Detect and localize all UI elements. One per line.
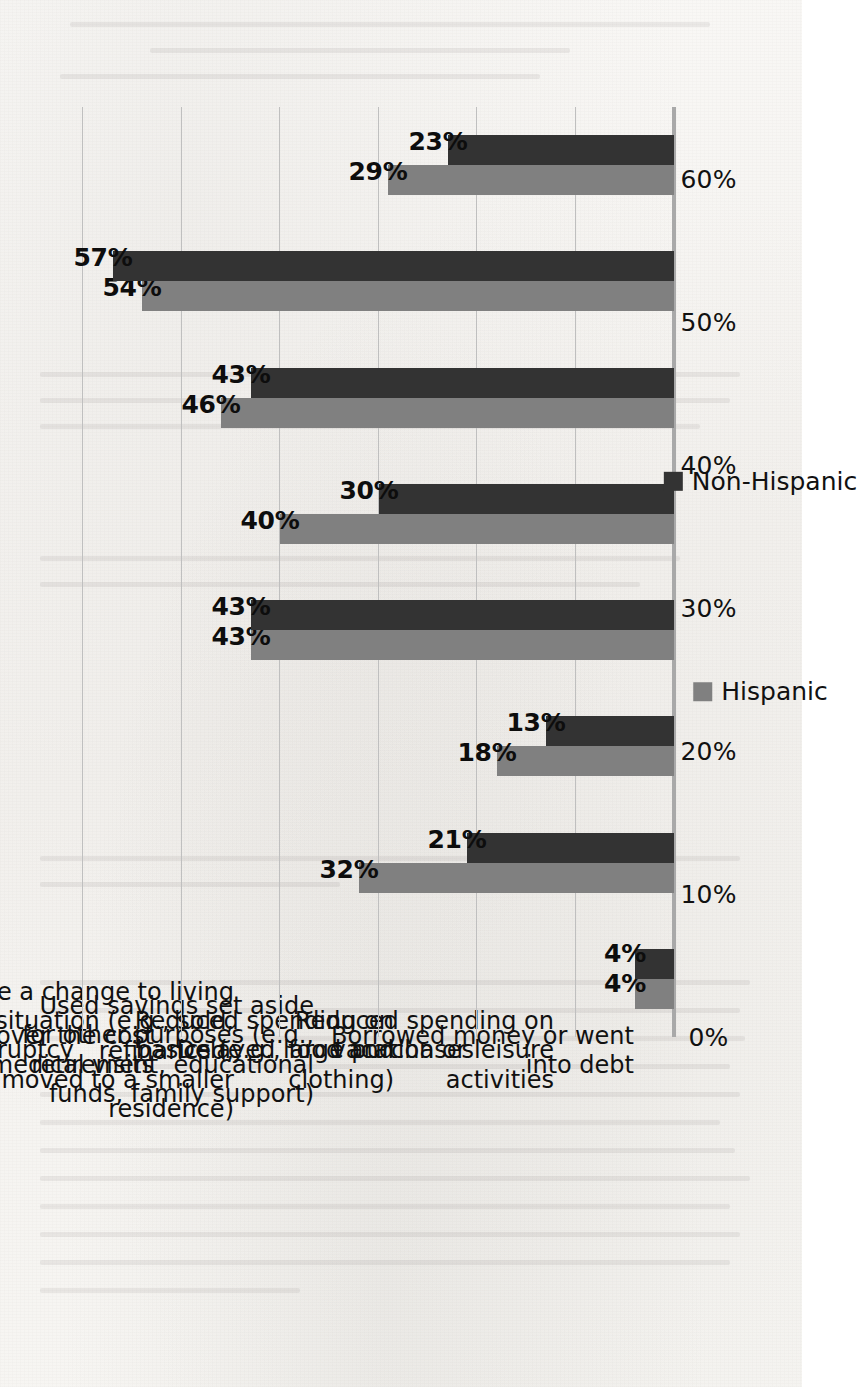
legend-swatch [693, 682, 712, 701]
bar-value-label: 43% [211, 592, 270, 621]
plot-area: 4%4%32%21%18%13%43%43%40%30%46%43%54%57%… [34, 107, 676, 1037]
bar-hispanic: 54% [142, 281, 674, 311]
value-axis-tick-label: 60% [680, 164, 736, 193]
legend-item-hispanic[interactable]: Hispanic [693, 677, 828, 706]
chart-area: Filed for bankruptcyUnable to cover the … [16, 29, 786, 1359]
bar-group: 54%57% [34, 223, 674, 339]
bar-group: 4%4% [34, 920, 674, 1036]
value-axis-labels: 0%10%20%30%40%50%60% [692, 107, 734, 1037]
bar-hispanic: 46% [221, 397, 674, 427]
bar-hispanic: 40% [280, 513, 674, 543]
bar-value-label: 23% [408, 127, 467, 156]
bar-value-label: 32% [319, 854, 378, 883]
bar-non-hispanic: 30% [379, 483, 674, 513]
bar-value-label: 4% [604, 939, 646, 968]
bar-value-label: 13% [507, 708, 566, 737]
bar-hispanic: 43% [251, 630, 674, 660]
chart-legend: HispanicNon-Hispanic [740, 107, 780, 1037]
legend-swatch [663, 472, 682, 491]
bar-hispanic: 32% [359, 862, 674, 892]
category-axis: Filed for bankruptcyUnable to cover the … [34, 1041, 674, 1359]
bar-group: 18%13% [34, 688, 674, 804]
legend-item-non-hispanic[interactable]: Non-Hispanic [663, 467, 856, 496]
bar-non-hispanic: 43% [251, 367, 674, 397]
bar-groups: 4%4%32%21%18%13%43%43%40%30%46%43%54%57%… [34, 107, 674, 1037]
bar-value-label: 40% [241, 505, 300, 534]
bar-hispanic: 4% [635, 978, 674, 1008]
bar-hispanic: 29% [388, 165, 674, 195]
bar-non-hispanic: 4% [635, 948, 674, 978]
bar-value-label: 57% [73, 243, 132, 272]
value-axis-tick-label: 10% [680, 879, 736, 908]
value-axis-tick-label: 20% [680, 736, 736, 765]
value-axis-tick-label: 0% [688, 1022, 728, 1051]
bar-value-label: 43% [211, 359, 270, 388]
bar-non-hispanic: 23% [448, 135, 674, 165]
legend-label: Non-Hispanic [691, 467, 856, 496]
bar-value-label: 46% [182, 389, 241, 418]
bar-value-label: 30% [339, 475, 398, 504]
bar-non-hispanic: 21% [467, 832, 674, 862]
bar-value-label: 18% [457, 738, 516, 767]
bar-value-label: 21% [428, 824, 487, 853]
bar-non-hispanic: 13% [546, 716, 674, 746]
bar-hispanic: 18% [497, 746, 674, 776]
bar-group: 40%30% [34, 455, 674, 571]
value-axis-tick-label: 50% [680, 307, 736, 336]
legend-label: Hispanic [721, 677, 828, 706]
bar-group: 46%43% [34, 339, 674, 455]
bar-group: 29%23% [34, 107, 674, 223]
bar-non-hispanic: 43% [251, 600, 674, 630]
bar-group: 43%43% [34, 572, 674, 688]
bar-non-hispanic: 57% [113, 251, 674, 281]
bar-group: 32%21% [34, 804, 674, 920]
bar-chart: Filed for bankruptcyUnable to cover the … [16, 29, 786, 1359]
value-axis-tick-label: 30% [680, 593, 736, 622]
bar-value-label: 29% [349, 157, 408, 186]
